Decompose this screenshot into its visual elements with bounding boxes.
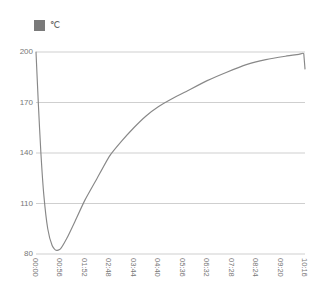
- x-axis-tick-label: 09:20: [276, 258, 284, 277]
- x-axis-tick-label: 05:36: [178, 258, 186, 277]
- x-axis-labels: 00:0000:5601:5202:4803:4404:4005:3606:32…: [0, 0, 316, 298]
- x-axis-tick-label: 08:24: [252, 258, 260, 277]
- x-axis-tick-label: 04:40: [154, 258, 162, 277]
- x-axis-tick-label: 01:52: [80, 258, 88, 277]
- x-axis-tick-label: 00:56: [56, 258, 64, 277]
- x-axis-tick-label: 03:44: [129, 258, 137, 277]
- x-axis-tick-label: 02:48: [105, 258, 113, 277]
- x-axis-tick-label: 10:16: [301, 258, 309, 277]
- x-axis-tick-label: 06:32: [203, 258, 211, 277]
- temperature-line-chart: ℃ 80110140170200 00:0000:5601:5202:4803:…: [0, 0, 316, 298]
- x-axis-tick-label: 00:00: [32, 258, 40, 277]
- x-axis-tick-label: 07:28: [227, 258, 235, 277]
